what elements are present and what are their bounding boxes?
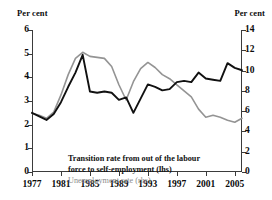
legend: Transition rate from out of the labour f… [68, 154, 238, 187]
left-tick-label: 3 [24, 96, 29, 106]
left-tick-label: 4 [24, 73, 29, 83]
x-tick-mark [61, 172, 62, 176]
left-tick-label: 2 [24, 120, 29, 130]
series-line-unemployment-rate [32, 52, 242, 122]
legend-item-unemployment-rate: Unemployment rate (rhs) [68, 175, 238, 187]
right-tick-label: 2 [245, 147, 250, 157]
legend-item-transition-rate-line2: force to self-employment (lhs) [68, 165, 238, 176]
left-tick-label: 0 [24, 167, 29, 177]
right-tick-label: 4 [245, 127, 250, 137]
right-tick-label: 0 [245, 167, 250, 177]
right-tick-label: 14 [245, 25, 255, 35]
x-tick-label: 1977 [23, 179, 42, 189]
left-axis-unit-label: Per cent [17, 8, 48, 18]
legend-item-transition-rate-line1: Transition rate from out of the labour [68, 154, 238, 165]
plot-area: 0123456 02468101214 19771981198519891993… [32, 30, 242, 172]
x-tick-mark [32, 172, 33, 176]
right-tick-label: 12 [245, 46, 255, 56]
left-tick-label: 1 [24, 144, 29, 154]
left-tick-label: 6 [24, 25, 29, 35]
right-tick-label: 8 [245, 86, 250, 96]
series-plot [32, 30, 242, 172]
chart-container: Per cent Per cent 0123456 02468101214 19… [0, 0, 272, 200]
right-tick-label: 6 [245, 106, 250, 116]
left-tick-label: 5 [24, 49, 29, 59]
right-tick-label: 10 [245, 66, 255, 76]
right-axis-unit-label: Per cent [234, 8, 265, 18]
